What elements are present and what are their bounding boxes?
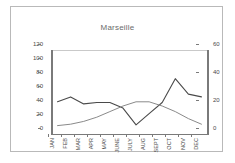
series-lines [51, 50, 208, 135]
right-tick-60: 60 [213, 41, 220, 47]
x-label-may: MAY [102, 138, 108, 150]
x-label-feb: FEB [63, 138, 69, 149]
x-label-nov: NOV [181, 138, 187, 150]
x-tickmark [48, 134, 49, 137]
left-tickmark [38, 44, 41, 45]
series-precipitation-line [58, 79, 202, 125]
right-tick-20: 20 [213, 97, 220, 103]
x-label-june: JUNE [115, 138, 121, 152]
x-label-mar: MAR [76, 138, 82, 150]
chart-frame: Marseille 020406080100120 0204060 JANFEB… [10, 6, 223, 152]
x-label-aug: AUG [141, 138, 147, 150]
left-tickmark [38, 72, 41, 73]
left-tickmark [38, 58, 41, 59]
plot-area [51, 50, 208, 134]
x-label-dec: DEC [194, 138, 200, 150]
left-tickmark [38, 128, 41, 129]
chart-title: Marseille [11, 23, 224, 32]
right-tick-0: 0 [213, 125, 216, 131]
x-label-july: JULY [128, 138, 134, 151]
right-tick-40: 40 [213, 69, 220, 75]
x-label-sept: SEPT [154, 138, 160, 152]
right-tickmark [196, 44, 199, 45]
left-tickmark [38, 100, 41, 101]
left-tickmark [38, 114, 41, 115]
x-label-jan: JAN [50, 138, 56, 148]
x-label-oct: OCT [167, 138, 173, 150]
x-label-apr: APR [89, 138, 95, 149]
series-temperature-line [58, 102, 202, 126]
left-tickmark [38, 86, 41, 87]
